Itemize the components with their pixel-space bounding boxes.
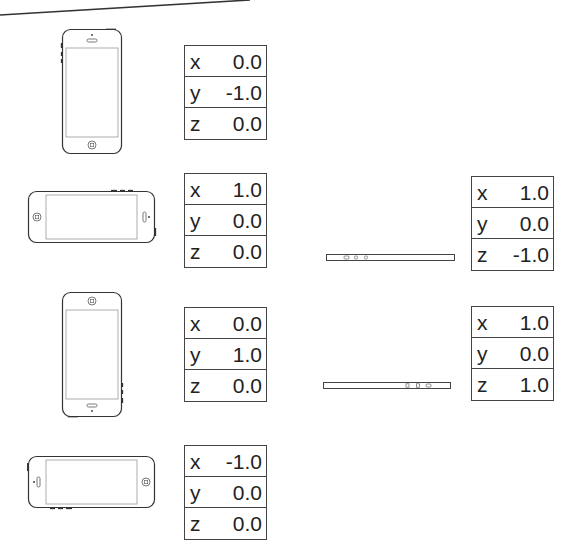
axis-label-x: x — [190, 179, 201, 200]
row-y: y1.0 — [185, 339, 266, 370]
value-z: 0.0 — [233, 241, 262, 262]
vector-table-portrait-upside-down: x0.0 y1.0 z0.0 — [184, 307, 267, 402]
row-x: x-1.0 — [185, 446, 266, 477]
phone-portrait-upside-down-icon — [60, 290, 124, 418]
axis-label-x: x — [190, 51, 201, 72]
vector-table-landscape-right: x-1.0 y0.0 z0.0 — [184, 445, 267, 540]
axis-label-z: z — [477, 374, 488, 395]
axis-label-z: z — [477, 244, 488, 265]
value-z: 0.0 — [233, 113, 262, 134]
row-x: x0.0 — [185, 308, 266, 339]
row-z: z1.0 — [472, 369, 553, 400]
axis-label-y: y — [477, 213, 488, 234]
axis-label-y: y — [477, 343, 488, 364]
value-z: 0.0 — [233, 375, 262, 396]
axis-label-x: x — [190, 313, 201, 334]
value-y: 1.0 — [233, 344, 262, 365]
row-z: z0.0 — [185, 508, 266, 539]
top-curve-line — [0, 0, 575, 20]
axis-label-y: y — [190, 210, 201, 231]
row-x: x1.0 — [472, 307, 553, 338]
phone-landscape-home-left-icon — [27, 188, 157, 244]
phone-flat-face-down-icon — [322, 380, 454, 392]
row-z: z0.0 — [185, 236, 266, 267]
vector-table-face-up: x1.0 y0.0 z-1.0 — [471, 176, 554, 271]
row-y: y-1.0 — [185, 77, 266, 108]
row-y: y0.0 — [472, 208, 553, 239]
value-x: 1.0 — [520, 312, 549, 333]
row-x: x1.0 — [185, 174, 266, 205]
vector-table-face-down: x1.0 y0.0 z1.0 — [471, 306, 554, 401]
axis-label-x: x — [477, 312, 488, 333]
row-z: z0.0 — [185, 370, 266, 401]
phone-flat-face-up-icon — [325, 252, 457, 264]
axis-label-z: z — [190, 241, 201, 262]
axis-label-y: y — [190, 82, 201, 103]
phone-landscape-home-right-icon — [27, 455, 157, 513]
value-y: 0.0 — [233, 482, 262, 503]
row-x: x0.0 — [185, 46, 266, 77]
axis-label-y: y — [190, 482, 201, 503]
value-x: 0.0 — [233, 313, 262, 334]
axis-label-x: x — [477, 182, 488, 203]
axis-label-z: z — [190, 513, 201, 534]
value-x: 0.0 — [233, 51, 262, 72]
row-y: y0.0 — [185, 205, 266, 236]
value-y: 0.0 — [520, 213, 549, 234]
axis-label-x: x — [190, 451, 201, 472]
value-y: 0.0 — [520, 343, 549, 364]
axis-label-y: y — [190, 344, 201, 365]
value-x: -1.0 — [226, 451, 262, 472]
value-x: 1.0 — [520, 182, 549, 203]
axis-label-z: z — [190, 113, 201, 134]
row-y: y0.0 — [472, 338, 553, 369]
vector-table-landscape-left: x1.0 y0.0 z0.0 — [184, 173, 267, 268]
value-z: 1.0 — [520, 374, 549, 395]
vector-table-portrait: x0.0 y-1.0 z0.0 — [184, 45, 267, 140]
phone-portrait-icon — [60, 28, 124, 156]
value-y: -1.0 — [226, 82, 262, 103]
row-y: y0.0 — [185, 477, 266, 508]
row-z: z0.0 — [185, 108, 266, 139]
row-z: z-1.0 — [472, 239, 553, 270]
value-y: 0.0 — [233, 210, 262, 231]
value-z: 0.0 — [233, 513, 262, 534]
row-x: x1.0 — [472, 177, 553, 208]
axis-label-z: z — [190, 375, 201, 396]
value-z: -1.0 — [513, 244, 549, 265]
value-x: 1.0 — [233, 179, 262, 200]
